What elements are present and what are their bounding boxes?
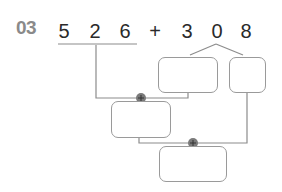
answer-box-d[interactable] — [159, 146, 227, 182]
answer-box-c[interactable] — [111, 101, 171, 138]
answer-box-a[interactable] — [158, 57, 218, 93]
connector-lines — [0, 0, 282, 192]
answer-box-b[interactable] — [229, 57, 266, 93]
